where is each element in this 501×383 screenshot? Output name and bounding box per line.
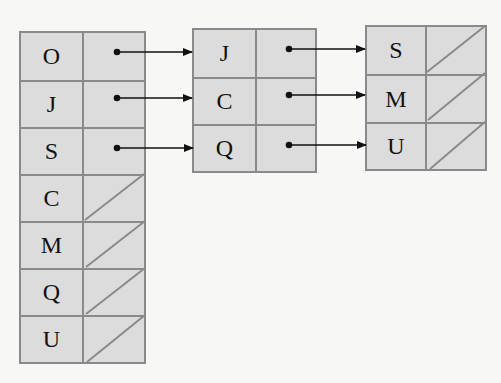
null-slash-icon (85, 26, 486, 362)
pointer-arrows (0, 0, 501, 383)
arrow-icon (114, 46, 366, 150)
